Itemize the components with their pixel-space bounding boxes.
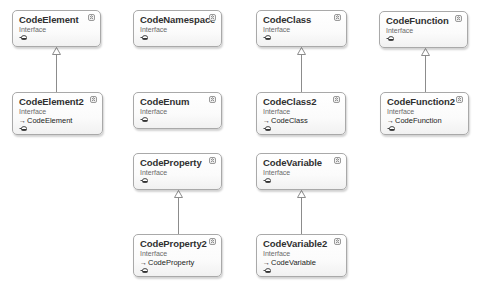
inheritance-arrowhead-icon <box>298 191 306 198</box>
shape-name: CodeVariable2 <box>263 238 341 249</box>
lollipop-interface-icon <box>19 126 27 131</box>
lollipop-interface-icon <box>140 117 148 122</box>
shape-name: CodeFunction2 <box>387 96 463 107</box>
shape-stereotype: Interface <box>387 107 463 116</box>
shape-name: CodeNamespace <box>140 14 216 25</box>
shape-name: CodeEnum <box>140 96 216 107</box>
interface-shape-codeclass2[interactable]: CodeClass2 Interface →CodeClass <box>256 92 346 135</box>
inherits-arrow-icon: → <box>263 259 270 266</box>
interface-shape-codefunction[interactable]: CodeFunction Interface <box>379 11 468 48</box>
shape-stereotype: Interface <box>19 107 97 116</box>
lollipop-interface-icon <box>263 178 271 183</box>
interface-shape-codeenum[interactable]: CodeEnum Interface <box>133 92 222 129</box>
collapse-toggle-button[interactable] <box>333 96 340 103</box>
inheritance-arrowhead-icon <box>175 191 183 198</box>
interface-shape-codevariable[interactable]: CodeVariable Interface <box>256 153 347 190</box>
lollipop-interface-icon <box>140 178 148 183</box>
shape-name: CodeProperty <box>140 157 216 168</box>
collapse-toggle-button[interactable] <box>209 238 216 245</box>
collapse-toggle-button[interactable] <box>334 14 341 21</box>
base-interface-reference: →CodeProperty <box>140 258 216 267</box>
inheritance-arrowhead-icon <box>53 48 61 55</box>
collapse-toggle-button[interactable] <box>334 157 341 164</box>
collapse-toggle-button[interactable] <box>455 15 462 22</box>
double-chevron-up-icon <box>89 15 94 20</box>
inherits-arrow-icon: → <box>19 117 26 124</box>
shape-stereotype: Interface <box>263 107 340 116</box>
base-interface-name: CodeProperty <box>148 258 194 267</box>
interface-shape-codeproperty2[interactable]: CodeProperty2 Interface →CodeProperty <box>133 234 222 277</box>
double-chevron-up-icon <box>335 239 340 244</box>
interface-shape-codevariable2[interactable]: CodeVariable2 Interface →CodeVariable <box>256 234 347 277</box>
shape-name: CodeElement2 <box>19 96 97 107</box>
base-interface-reference: →CodeElement <box>19 116 97 125</box>
interface-shape-codeproperty[interactable]: CodeProperty Interface <box>133 153 222 190</box>
shape-name: CodeVariable <box>263 157 341 168</box>
base-interface-name: CodeVariable <box>271 258 316 267</box>
collapse-toggle-button[interactable] <box>88 14 95 21</box>
lollipop-interface-icon <box>19 35 27 40</box>
inheritance-arrowhead-icon <box>422 49 430 56</box>
double-chevron-up-icon <box>334 97 339 102</box>
inheritance-arrowhead-icon <box>298 48 306 55</box>
collapse-toggle-button[interactable] <box>456 96 463 103</box>
collapse-toggle-button[interactable] <box>209 14 216 21</box>
double-chevron-up-icon <box>335 158 340 163</box>
base-interface-reference: →CodeClass <box>263 116 340 125</box>
shape-name: CodeProperty2 <box>140 238 216 249</box>
base-interface-reference: →CodeFunction <box>387 116 463 125</box>
lollipop-interface-icon <box>140 268 148 273</box>
shape-name: CodeFunction <box>386 15 462 26</box>
double-chevron-up-icon <box>210 97 215 102</box>
inherits-arrow-icon: → <box>387 117 394 124</box>
double-chevron-up-icon <box>91 97 96 102</box>
collapse-toggle-button[interactable] <box>209 157 216 164</box>
double-chevron-up-icon <box>210 158 215 163</box>
double-chevron-up-icon <box>210 15 215 20</box>
interface-shape-codefunction2[interactable]: CodeFunction2 Interface →CodeFunction <box>380 92 469 135</box>
shape-stereotype: Interface <box>263 25 341 34</box>
lollipop-interface-icon <box>263 268 271 273</box>
lollipop-interface-icon <box>386 36 394 41</box>
interface-shape-codenamespace[interactable]: CodeNamespace Interface <box>133 10 222 47</box>
lollipop-interface-icon <box>263 126 271 131</box>
interface-shape-codeelement[interactable]: CodeElement Interface <box>12 10 101 47</box>
base-interface-name: CodeFunction <box>395 116 442 125</box>
double-chevron-up-icon <box>457 97 462 102</box>
lollipop-interface-icon <box>263 35 271 40</box>
interface-shape-codeelement2[interactable]: CodeElement2 Interface →CodeElement <box>12 92 103 135</box>
inherits-arrow-icon: → <box>140 259 147 266</box>
base-interface-name: CodeElement <box>27 116 72 125</box>
collapse-toggle-button[interactable] <box>90 96 97 103</box>
class-diagram-canvas: CodeElement Interface CodeNamespace Inte… <box>0 0 485 285</box>
shape-stereotype: Interface <box>140 25 216 34</box>
double-chevron-up-icon <box>335 15 340 20</box>
collapse-toggle-button[interactable] <box>209 96 216 103</box>
base-interface-reference: →CodeVariable <box>263 258 341 267</box>
shape-name: CodeClass2 <box>263 96 340 107</box>
inherits-arrow-icon: → <box>263 117 270 124</box>
shape-stereotype: Interface <box>263 168 341 177</box>
double-chevron-up-icon <box>456 16 461 21</box>
base-interface-name: CodeClass <box>271 116 308 125</box>
shape-stereotype: Interface <box>140 249 216 258</box>
interface-shape-codeclass[interactable]: CodeClass Interface <box>256 10 347 47</box>
shape-stereotype: Interface <box>140 107 216 116</box>
lollipop-interface-icon <box>140 35 148 40</box>
shape-name: CodeClass <box>263 14 341 25</box>
collapse-toggle-button[interactable] <box>334 238 341 245</box>
shape-stereotype: Interface <box>19 25 95 34</box>
shape-stereotype: Interface <box>140 168 216 177</box>
shape-name: CodeElement <box>19 14 95 25</box>
shape-stereotype: Interface <box>386 26 462 35</box>
double-chevron-up-icon <box>210 239 215 244</box>
lollipop-interface-icon <box>387 126 395 131</box>
shape-stereotype: Interface <box>263 249 341 258</box>
